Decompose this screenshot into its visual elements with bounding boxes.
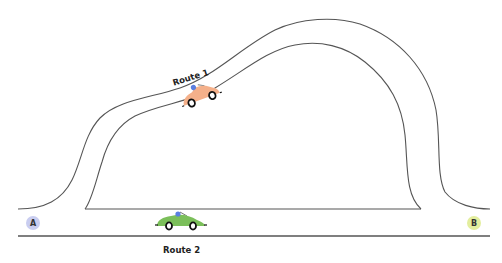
point-a-marker: A [26,216,40,230]
route-2-label: Route 2 [163,245,200,255]
route-1-outer-edge [18,19,490,209]
point-b-marker: B [467,216,481,230]
route-1-label: Route 1 [171,67,210,87]
car-green-icon [155,211,207,229]
point-a-label: A [30,219,37,228]
point-b-label: B [471,219,477,228]
route-diagram: Route 1 Route 2 A B [0,0,502,263]
route-1-inner-edge [85,43,421,209]
